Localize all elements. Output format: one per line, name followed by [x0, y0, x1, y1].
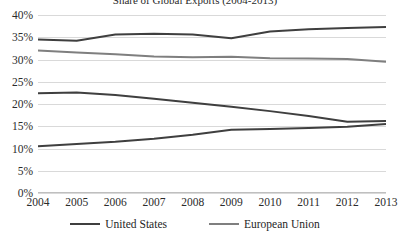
x-axis-labels: 2004200520062007200820092010201120122013 — [38, 196, 386, 214]
x-tick-label: 2004 — [27, 196, 50, 208]
x-tick-label: 2011 — [297, 196, 320, 208]
chart-legend: United StatesEuropean Union — [0, 218, 390, 230]
gridline-0% — [38, 193, 386, 194]
legend-item-european-union[interactable]: European Union — [209, 218, 320, 230]
y-axis-labels: 0%5%10%15%20%25%30%35%40% — [0, 15, 390, 193]
x-tick-label: 2007 — [143, 196, 166, 208]
y-tick-label: 35% — [0, 31, 33, 43]
y-tick-label: 30% — [0, 54, 33, 66]
legend-label: United States — [105, 218, 167, 230]
y-tick-label: 20% — [0, 98, 33, 110]
x-tick-label: 2010 — [259, 196, 282, 208]
y-tick-label: 10% — [0, 143, 33, 155]
x-tick-label: 2012 — [336, 196, 359, 208]
legend-swatch-icon — [70, 223, 100, 225]
x-tick-label: 2009 — [220, 196, 243, 208]
y-tick-label: 25% — [0, 76, 33, 88]
legend-label: European Union — [244, 218, 320, 230]
x-tick-label: 2005 — [65, 196, 88, 208]
legend-item-united-states[interactable]: United States — [70, 218, 167, 230]
y-tick-label: 40% — [0, 9, 33, 21]
legend-swatch-icon — [209, 223, 239, 225]
y-tick-label: 5% — [0, 165, 33, 177]
chart-title: Share of Global Exports (2004-2013) — [0, 0, 390, 6]
x-tick-label: 2006 — [104, 196, 127, 208]
x-tick-label: 2008 — [181, 196, 204, 208]
x-tick-label: 2013 — [375, 196, 398, 208]
y-tick-label: 15% — [0, 120, 33, 132]
